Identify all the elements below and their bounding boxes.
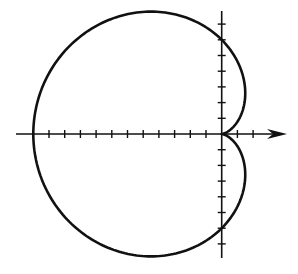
cardioid-diagram — [0, 0, 298, 274]
axes — [16, 11, 287, 258]
diagram-canvas — [0, 0, 298, 274]
